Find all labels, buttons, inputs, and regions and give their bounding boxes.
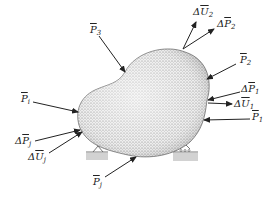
label-Pj: Pj	[93, 177, 102, 189]
arrow-P3	[99, 36, 125, 72]
label-delta-U1: ΔU1	[234, 99, 254, 111]
label-delta-P2: ΔP2	[217, 19, 235, 31]
label-delta-U2: ΔU2	[193, 7, 213, 19]
label-delta-Uj: ΔUj	[28, 152, 46, 164]
label-P3: P3	[90, 25, 101, 37]
label-Pi: Pi	[21, 94, 30, 106]
arrow-Pj	[105, 157, 136, 177]
label-P2: P2	[240, 55, 251, 67]
deformable-body	[78, 49, 210, 157]
label-delta-Pj: ΔPj	[15, 136, 31, 148]
arrow-P1	[204, 119, 250, 120]
arrow-dU1	[208, 103, 232, 104]
arrow-P2	[207, 64, 236, 79]
label-delta-P1: ΔP1	[241, 84, 259, 96]
label-P1: P1	[252, 112, 263, 124]
arrow-dUj	[49, 132, 82, 153]
arrow-dPj	[35, 130, 80, 141]
arrow-Pi	[33, 102, 78, 112]
